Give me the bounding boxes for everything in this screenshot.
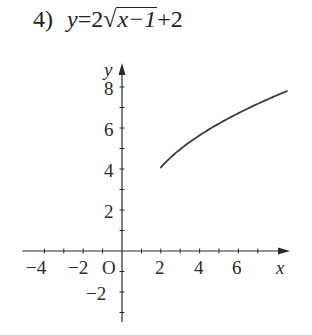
y-axis-arrow-icon xyxy=(119,63,126,75)
axis-labels: y x O −4 −2 2 4 6 8 6 4 2 −2 xyxy=(26,59,285,304)
x-axis-label: x xyxy=(275,257,285,278)
x-axis-arrow-icon xyxy=(278,248,290,255)
x-tick-label-neg4: −4 xyxy=(26,257,47,278)
x-tick-label-neg2: −2 xyxy=(68,257,88,278)
function-graph: y x O −4 −2 2 4 6 8 6 4 2 −2 xyxy=(0,0,312,335)
x-tick-label-6: 6 xyxy=(232,257,242,278)
y-axis-label: y xyxy=(102,59,113,80)
y-tick-label-8: 8 xyxy=(104,78,114,99)
axes xyxy=(22,63,290,322)
origin-label: O xyxy=(102,257,116,278)
x-tick-label-2: 2 xyxy=(155,257,165,278)
y-tick-label-4: 4 xyxy=(104,160,114,181)
sqrt-curve xyxy=(161,91,287,167)
y-tick-label-2: 2 xyxy=(104,201,114,222)
function-curve xyxy=(161,91,287,167)
x-tick-label-4: 4 xyxy=(194,257,204,278)
y-tick-label-neg2: −2 xyxy=(86,283,106,304)
y-tick-label-6: 6 xyxy=(104,119,114,140)
